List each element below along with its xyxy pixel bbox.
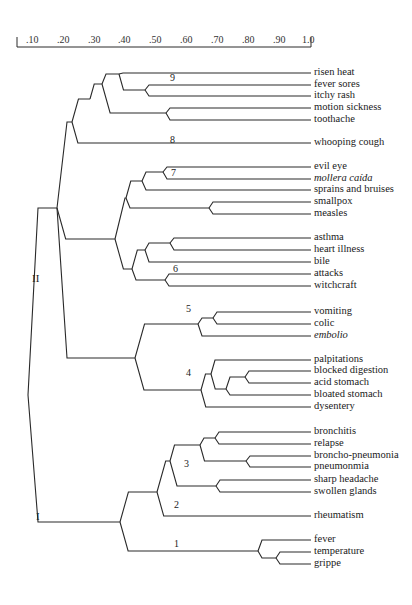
dendrogram-branch	[213, 318, 311, 324]
leaf-label: attacks	[314, 267, 343, 279]
leaf-label: measles	[314, 207, 347, 219]
dendrogram-branch	[200, 438, 215, 445]
leaf-label: whooping cough	[314, 136, 384, 148]
leaf-label: embolio	[314, 329, 348, 341]
cluster-number: 9	[170, 72, 175, 83]
leaf-label: pneumonmia	[314, 460, 369, 472]
dendrogram-branch	[57, 208, 135, 358]
dendrogram-branch	[211, 360, 311, 374]
leaf-label: witchcraft	[314, 279, 357, 291]
dendrogram-branch	[28, 395, 120, 522]
dendrogram-branch	[120, 492, 157, 522]
dendrogram-branch	[135, 324, 198, 358]
dendrogram-branch	[163, 167, 311, 172]
leaf-label: evil eye	[314, 160, 347, 172]
dendrogram-branch	[201, 390, 311, 407]
cluster-number: 7	[171, 167, 176, 178]
dendrogram-branch	[258, 540, 311, 551]
dendrogram-branch	[165, 274, 311, 280]
dendrogram-branch	[72, 122, 311, 143]
dendrogram-branch	[126, 181, 142, 198]
dendrogram-branch	[276, 552, 311, 558]
dendrogram-branch	[115, 239, 132, 269]
dendrogram-branch	[209, 202, 311, 208]
dendrogram-branch	[126, 198, 209, 208]
leaf-label: temperature	[314, 545, 364, 557]
dendrogram-branch	[72, 99, 90, 122]
dendrogram-branch	[213, 312, 311, 318]
leaf-label: risen heat	[314, 66, 355, 78]
leaf-label: motion sickness	[314, 101, 381, 113]
dendrogram-branch	[166, 108, 311, 113]
leaf-label: fever	[314, 533, 336, 545]
dendrogram-branch	[102, 74, 119, 84]
leaf-label: itchy rash	[314, 89, 355, 101]
dendrogram-branch	[216, 486, 311, 492]
dendrogram-branch	[200, 445, 246, 461]
dendrogram-branch	[132, 250, 145, 269]
group-label: II	[32, 272, 39, 284]
leaf-label: vomiting	[314, 305, 352, 317]
dendrogram-branch	[157, 492, 311, 516]
leaf-label: sharp headache	[314, 473, 378, 485]
dendrogram-branch	[145, 250, 311, 262]
cluster-number: 6	[173, 263, 178, 274]
dendrogram-branch	[57, 122, 72, 208]
leaf-label: bloated stomach	[314, 388, 383, 400]
leaf-label: heart illness	[314, 243, 364, 255]
dendrogram-branch	[145, 85, 311, 90]
dendrogram-branch	[142, 172, 163, 181]
dendrogram-branch	[157, 461, 170, 492]
dendrogram-branch	[163, 172, 311, 179]
cluster-number: 5	[186, 303, 191, 314]
leaf-label: relapse	[314, 437, 344, 449]
dendrogram-branch	[226, 377, 245, 389]
leaf-label: bronchitis	[314, 425, 356, 437]
dendrogram-branch	[165, 280, 311, 286]
leaf-label: swollen glands	[314, 485, 377, 497]
dendrogram-branch	[90, 84, 102, 99]
dendrogram-branch	[216, 480, 311, 486]
dendrogram-branch	[57, 208, 115, 239]
dendrogram-branch	[120, 522, 258, 551]
dendrogram-branch	[145, 90, 311, 96]
leaf-label: bile	[314, 255, 330, 267]
dendrogram-branch	[245, 377, 311, 383]
dendrogram-branch	[246, 456, 311, 461]
dendrogram-branch	[258, 551, 276, 558]
leaf-label: toothache	[314, 113, 355, 125]
dendrogram-branch	[201, 374, 211, 390]
leaf-label: smallpox	[314, 195, 353, 207]
dendrogram-branch	[226, 389, 311, 395]
dendrogram-branch	[145, 243, 170, 250]
dendrogram-branch	[215, 438, 311, 444]
leaf-label: rheumatism	[314, 509, 364, 521]
dendrogram-branch	[28, 208, 57, 395]
dendrogram-branch	[132, 269, 165, 280]
dendrogram-branch	[142, 181, 311, 190]
dendrogram-branch	[198, 324, 311, 336]
leaf-label: asthma	[314, 231, 344, 243]
group-label: I	[36, 510, 40, 522]
dendrogram-branch	[246, 461, 311, 467]
dendrogram-branch	[166, 113, 311, 120]
cluster-number: 8	[170, 134, 175, 145]
leaf-label: dysentery	[314, 400, 355, 412]
dendrogram-branch	[170, 238, 311, 243]
cluster-number: 1	[174, 538, 179, 549]
cluster-number: 3	[184, 458, 189, 469]
dendrogram-branch	[170, 461, 216, 486]
dendrogram-branch	[115, 198, 126, 239]
leaf-label: blocked digestion	[314, 364, 388, 376]
dendrogram-branch	[209, 208, 311, 214]
leaf-label: colic	[314, 317, 334, 329]
dendrogram-branch	[170, 243, 311, 250]
dendrogram-branch	[245, 371, 311, 377]
cluster-number: 2	[174, 499, 179, 510]
dendrogram-branch	[119, 73, 311, 74]
dendrogram-branch	[102, 84, 166, 113]
dendrogram-branch	[135, 358, 201, 390]
dendrogram-branch	[119, 74, 145, 90]
leaf-label: acid stomach	[314, 376, 369, 388]
dendrogram-branch	[276, 558, 311, 564]
